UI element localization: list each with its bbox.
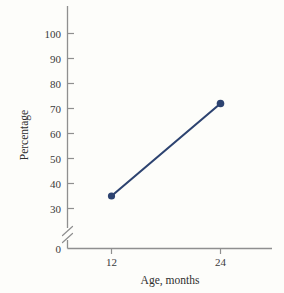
y-tick-label: 50 bbox=[50, 153, 62, 165]
x-axis-title: Age, months bbox=[141, 274, 200, 287]
y-tick-label: 90 bbox=[50, 53, 62, 65]
y-tick-label: 0 bbox=[56, 243, 62, 255]
x-tick-label: 24 bbox=[215, 256, 227, 268]
chart-figure: 100 90 80 70 60 50 40 30 0 12 24 Age, mo… bbox=[0, 0, 284, 293]
data-point-marker[interactable] bbox=[108, 192, 115, 199]
line-chart: 100 90 80 70 60 50 40 30 0 12 24 Age, mo… bbox=[0, 0, 284, 293]
data-point-marker[interactable] bbox=[217, 100, 225, 108]
y-tick-label: 30 bbox=[50, 203, 62, 215]
y-tick-label: 100 bbox=[45, 28, 62, 40]
y-tick-label: 70 bbox=[50, 103, 62, 115]
y-tick-label: 60 bbox=[50, 128, 62, 140]
x-tick-label: 12 bbox=[106, 256, 117, 268]
y-tick-label: 40 bbox=[50, 178, 62, 190]
y-tick-label: 80 bbox=[50, 78, 62, 90]
y-axis-title: Percentage bbox=[18, 110, 31, 160]
